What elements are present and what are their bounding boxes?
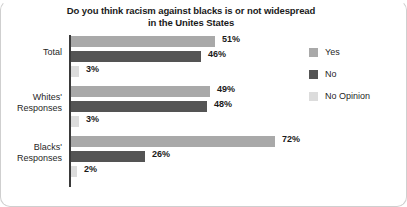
bar-value-whites-no: 48% <box>214 99 232 109</box>
legend-swatch-yes-icon <box>309 48 318 57</box>
bar-fill-yes <box>71 136 275 147</box>
bar-fill-no-opinion <box>71 116 79 127</box>
legend-label-no-opinion: No Opinion <box>325 91 370 101</box>
chart-title: Do you think racism against blacks is or… <box>41 5 341 29</box>
legend-swatch-no-opinion-icon <box>309 92 318 101</box>
bar-value-total-yes: 51% <box>222 34 240 44</box>
category-label-line-2: Responses <box>0 103 62 114</box>
legend-label-yes: Yes <box>325 47 340 57</box>
chart-card: Do you think racism against blacks is or… <box>0 0 407 207</box>
bar-value-blacks-yes: 72% <box>282 134 300 144</box>
bar-value-blacks-no-opinion: 2% <box>84 164 97 174</box>
bar-value-blacks-no: 26% <box>152 149 170 159</box>
bar-fill-no <box>71 101 207 112</box>
legend-item-no-opinion: No Opinion <box>309 85 404 107</box>
bar-fill-yes <box>71 36 215 47</box>
bar-fill-no-opinion <box>71 166 77 177</box>
chart-legend: Yes No No Opinion <box>309 41 404 107</box>
category-label-whites-responses: Whites' Responses <box>0 92 62 114</box>
chart-title-line-2: in the Unites States <box>41 17 341 29</box>
plot-area: Total 51% 46% 3% Whites' Responses <box>1 33 301 193</box>
category-label-line-1: Whites' <box>0 92 62 103</box>
category-label-total: Total <box>0 47 62 58</box>
bar-group-blacks-responses: Blacks' Responses 72% 26% 2% <box>1 133 301 183</box>
category-label-line-1: Total <box>0 47 62 58</box>
bar-fill-no <box>71 151 145 162</box>
category-label-line-1: Blacks' <box>0 142 62 153</box>
category-label-line-2: Responses <box>0 153 62 164</box>
bar-value-whites-yes: 49% <box>217 84 235 94</box>
bar-fill-no <box>71 51 201 62</box>
bar-value-total-no: 46% <box>208 49 226 59</box>
bar-group-whites-responses: Whites' Responses 49% 48% 3% <box>1 83 301 133</box>
legend-item-no: No <box>309 63 404 85</box>
chart-title-line-1: Do you think racism against blacks is or… <box>41 5 341 17</box>
bar-fill-no-opinion <box>71 66 79 77</box>
bar-fill-yes <box>71 86 210 97</box>
bar-group-total: Total 51% 46% 3% <box>1 33 301 83</box>
legend-item-yes: Yes <box>309 41 404 63</box>
bar-value-whites-no-opinion: 3% <box>86 114 99 124</box>
legend-swatch-no-icon <box>309 70 318 79</box>
category-label-blacks-responses: Blacks' Responses <box>0 142 62 164</box>
bar-value-total-no-opinion: 3% <box>86 64 99 74</box>
legend-label-no: No <box>325 69 337 79</box>
